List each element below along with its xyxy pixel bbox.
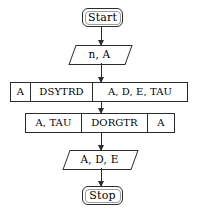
- dsytrd-output-cell: A, D, E, TAU: [93, 83, 187, 101]
- node-input-io: n, A: [72, 45, 127, 63]
- node-start-label: Start: [88, 12, 117, 23]
- arrow-start-to-input: [101, 27, 102, 45]
- flowchart-diagram: Start n, A A DSYTRD A, D, E, TAU A, TAU …: [0, 0, 199, 214]
- node-dsytrd-row: A DSYTRD A, D, E, TAU: [10, 82, 188, 102]
- dorgtr-name-cell: DORGTR: [82, 114, 148, 132]
- dorgtr-output-cell: A: [148, 114, 174, 132]
- arrow-dorgtr-to-output: [101, 133, 102, 150]
- arrow-input-to-dsytrd: [101, 63, 102, 82]
- arrow-dsytrd-to-dorgtr: [101, 102, 102, 113]
- dorgtr-input-cell: A, TAU: [26, 114, 82, 132]
- arrow-output-to-stop: [101, 168, 102, 186]
- node-output-io: A, D, E: [66, 150, 133, 168]
- node-stop: Stop: [82, 186, 123, 205]
- node-start: Start: [82, 8, 123, 27]
- node-stop-label: Stop: [89, 190, 115, 201]
- node-output-io-label: A, D, E: [66, 150, 133, 168]
- node-input-io-label: n, A: [72, 45, 127, 63]
- node-dorgtr-row: A, TAU DORGTR A: [25, 113, 175, 133]
- dsytrd-name-cell: DSYTRD: [31, 83, 93, 101]
- dsytrd-input-cell: A: [11, 83, 31, 101]
